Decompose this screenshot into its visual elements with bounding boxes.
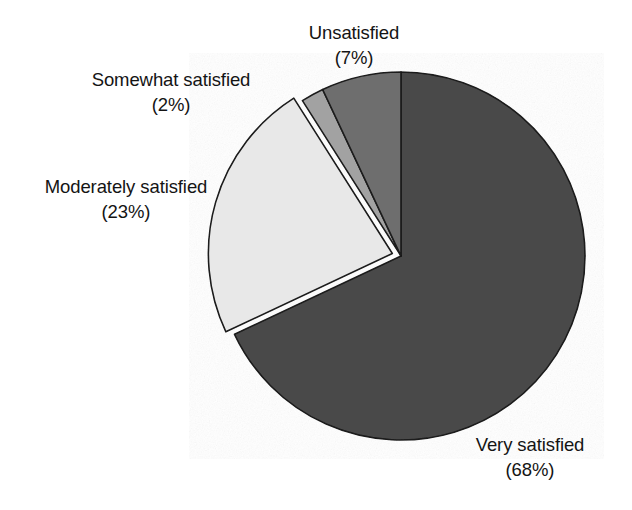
slice-label-somewhat-satisfied-name: Somewhat satisfied [36, 67, 306, 92]
slice-label-moderately-satisfied-value: (23%) [6, 199, 246, 224]
slice-label-unsatisfied: Unsatisfied (7%) [254, 20, 454, 70]
pie-chart-figure: Unsatisfied (7%) Somewhat satisfied (2%)… [0, 0, 632, 510]
slice-label-somewhat-satisfied-value: (2%) [36, 92, 306, 117]
slice-label-moderately-satisfied: Moderately satisfied (23%) [6, 174, 246, 224]
slice-label-somewhat-satisfied: Somewhat satisfied (2%) [36, 67, 306, 117]
slice-label-very-satisfied: Very satisfied (68%) [440, 432, 620, 482]
slice-label-moderately-satisfied-name: Moderately satisfied [6, 174, 246, 199]
slice-label-unsatisfied-name: Unsatisfied [254, 20, 454, 45]
slice-label-very-satisfied-name: Very satisfied [440, 432, 620, 457]
slice-label-very-satisfied-value: (68%) [440, 457, 620, 482]
